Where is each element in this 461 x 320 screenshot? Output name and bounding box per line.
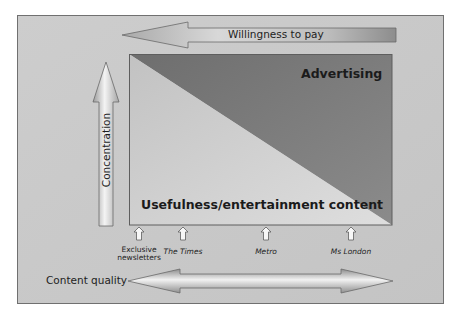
publication-metro: Metro	[255, 248, 277, 256]
diagram: Willingness to pay Concentration Adverti…	[0, 0, 461, 320]
advertising-label: Advertising	[301, 68, 382, 81]
publication-ms-london: Ms London	[331, 248, 371, 256]
willingness-label: Willingness to pay	[228, 29, 324, 40]
publication-the-times: The Times	[164, 248, 203, 256]
publication-exclusive-newsletters: Exclusive newsletters	[117, 246, 161, 263]
content-quality-label: Content quality	[46, 275, 127, 286]
usefulness-label: Usefulness/entertainment content	[141, 199, 383, 212]
publication-label-line2: newsletters	[117, 254, 161, 262]
concentration-label: Concentration	[101, 113, 112, 187]
